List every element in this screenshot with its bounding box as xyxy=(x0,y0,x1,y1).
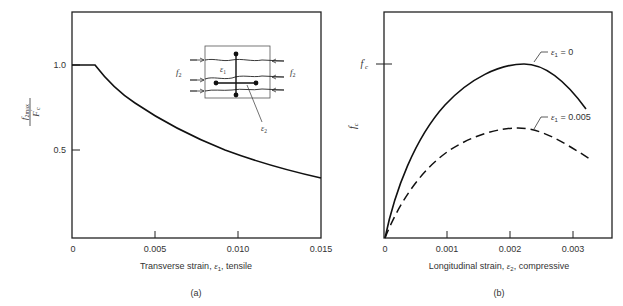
panel-b-caption: (b) xyxy=(494,288,505,298)
panel-b-curve-e1-0 xyxy=(385,64,586,238)
panel-a-frame xyxy=(72,12,321,238)
inset-f2-right: f2 xyxy=(290,67,296,78)
panel-a-xtick-label-0: 0 xyxy=(70,244,75,254)
svg-text:F′c: F′c xyxy=(30,107,41,118)
panel-b-xtick-label-0: 0 xyxy=(382,244,387,254)
panel-a-ylabel: f2max F′c xyxy=(19,98,41,126)
arrow-right-icon xyxy=(190,58,204,62)
panel-a-ytick-label-1: 1.0 xyxy=(53,60,66,70)
panel-a-curve xyxy=(72,65,321,178)
panel-b-ylabel: fc xyxy=(347,122,360,129)
svg-text:f2max: f2max xyxy=(19,104,30,120)
svg-text:ε1 = 0.005: ε1 = 0.005 xyxy=(551,112,591,123)
panel-a-inset: f2 f2 ε1 ε2 xyxy=(176,46,296,134)
panel-b-frame xyxy=(384,12,612,238)
legend-e1-0005: ε1 = 0.005 xyxy=(534,112,591,129)
panel-b-ytick-label-fc: f′c xyxy=(361,57,369,71)
panel-b-xtick-label-002: 0.002 xyxy=(499,244,522,254)
svg-text:fc: fc xyxy=(347,122,360,129)
panel-a-xlabel: Transverse strain, ε1, tensile xyxy=(140,261,252,272)
panel-a-caption: (a) xyxy=(191,288,202,298)
panel-b-xtick-label-001: 0.001 xyxy=(436,244,459,254)
legend-e1-0: ε1 = 0 xyxy=(534,47,573,62)
inset-e2: ε2 xyxy=(261,124,267,134)
panel-b-xtick-label-003: 0.003 xyxy=(562,244,585,254)
panel-a-ytick-label-05: 0.5 xyxy=(53,145,66,155)
inset-f2-left: f2 xyxy=(176,67,182,78)
panel-b-curve-e1-0005 xyxy=(385,128,590,238)
arrow-left-icon xyxy=(272,75,284,79)
panel-a: 1.0 0.5 0 0.005 0.010 0.015 Transverse s… xyxy=(19,12,332,298)
panel-b: f′c fc 0 0.001 0.002 0.003 Longitudinal … xyxy=(347,12,612,298)
panel-a-xtick-label-010: 0.010 xyxy=(227,244,250,254)
arrow-right-icon xyxy=(190,89,204,93)
panel-a-xtick-label-015: 0.015 xyxy=(310,244,333,254)
panel-b-xlabel: Longitudinal strain, ε2, compressive xyxy=(429,261,569,272)
arrow-right-icon xyxy=(190,78,204,82)
figure: 1.0 0.5 0 0.005 0.010 0.015 Transverse s… xyxy=(0,0,623,306)
panel-a-xtick-label-005: 0.005 xyxy=(144,244,167,254)
arrow-left-icon xyxy=(272,88,284,92)
arrow-left-icon xyxy=(272,59,284,63)
svg-text:ε1 = 0: ε1 = 0 xyxy=(551,47,573,58)
